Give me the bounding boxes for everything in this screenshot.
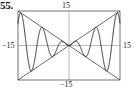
axis-label-top: 15 bbox=[62, 1, 70, 10]
axis-label-right: 15 bbox=[123, 41, 131, 50]
axis-label-left: −15 bbox=[2, 41, 15, 50]
graph-plot-area bbox=[0, 0, 138, 92]
axis-label-bottom: −15 bbox=[60, 80, 73, 89]
figure-container: 55. 15 −15 15 −15 bbox=[0, 0, 138, 92]
